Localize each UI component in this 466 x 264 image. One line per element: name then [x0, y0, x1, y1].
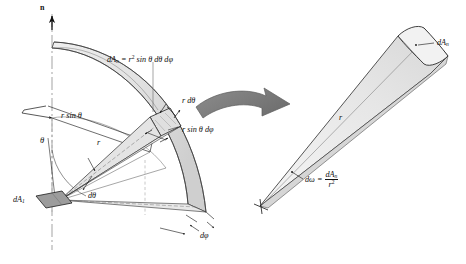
- figure-root: n dAn = r2 sin θ dθ dφ r dθ r sin θ dφ r…: [0, 0, 466, 264]
- domega-formula-label: dω = dAn r2: [305, 171, 338, 190]
- dAn-cap-label: dAn: [437, 39, 449, 48]
- radius-label-left: r: [97, 139, 100, 147]
- dA1-label: dA1: [13, 196, 25, 205]
- dphi-label: dφ: [200, 232, 209, 240]
- dtheta-label: dθ: [88, 192, 96, 200]
- r-sin-theta-label: r sin θ: [61, 112, 82, 120]
- transition-arrow: [196, 88, 290, 118]
- r-sin-theta-dphi-label: r sin θ dφ: [182, 126, 214, 134]
- figure-graphics: [0, 0, 466, 264]
- theta-angle-arc: [48, 138, 86, 197]
- dAn-formula-label: dAn = r2 sin θ dθ dφ: [107, 55, 173, 64]
- normal-axis-label: n: [40, 4, 44, 12]
- r-dtheta-label: r dθ: [182, 97, 195, 105]
- theta-label: θ: [40, 136, 44, 145]
- radius-label-right: r: [339, 114, 342, 122]
